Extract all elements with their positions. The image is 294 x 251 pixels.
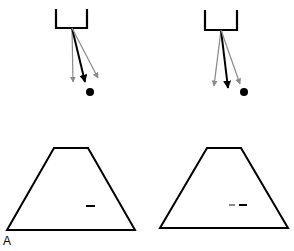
left-target-dot bbox=[86, 88, 94, 96]
right-panel bbox=[160, 10, 288, 228]
right-gray-arrow-1 bbox=[214, 30, 221, 86]
left-black-arrow bbox=[72, 28, 85, 82]
diagram-canvas bbox=[0, 0, 294, 251]
left-trapezoid bbox=[7, 148, 135, 230]
left-gray-arrow-1 bbox=[72, 28, 73, 82]
right-target-dot bbox=[240, 88, 248, 96]
right-cup bbox=[205, 10, 237, 30]
left-panel bbox=[7, 9, 135, 230]
right-trapezoid bbox=[160, 148, 288, 228]
left-cup bbox=[56, 9, 87, 28]
left-gray-arrow-2 bbox=[72, 28, 98, 78]
panel-label: A bbox=[3, 234, 11, 248]
